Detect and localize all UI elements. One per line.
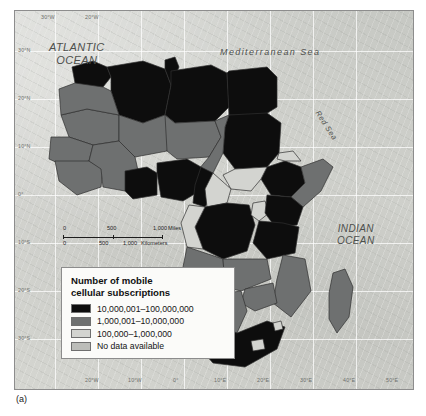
legend-item-low[interactable]: 100,000–1,000,000 [71,329,226,339]
country-region-low-enclave [273,321,283,331]
country-region-low-enclave [251,339,265,351]
label-indian-ocean: INDIAN OCEAN [337,223,375,247]
coord-label-latitude: 0° [18,191,23,197]
coord-label-longitude: 20°E [257,377,269,383]
map-frame[interactable]: ATLANTIC OCEAN INDIAN OCEAN Mediterranea… [14,10,414,390]
scale-bar-miles-row: 0 500 1,000 Miles [63,225,181,234]
legend-label-high: 10,000,001–100,000,000 [97,304,194,314]
coord-label-latitude: 30°N [18,47,31,53]
country-region-mid [273,255,311,317]
legend-swatch-mid [71,317,91,326]
scale-km-max: 1,000 [123,240,137,246]
coord-label-longitude: 40°E [343,377,355,383]
coord-label-longitude: 0° [173,377,178,383]
label-mediterranean-sea: Mediterranean Sea [220,47,320,58]
legend-label-nodata: No data available [97,341,164,351]
scale-km-mid: 500 [99,240,108,246]
figure-map-mobile-subscriptions-africa: ATLANTIC OCEAN INDIAN OCEAN Mediterranea… [0,0,426,416]
coord-label-longitude: 10°W [128,377,142,383]
coord-label-latitude: 10°N [18,143,31,149]
scale-bar: 0 500 1,000 Miles 0 500 1,000 Kilometers [63,225,181,249]
coord-label-latitude: 10°S [18,239,30,245]
coord-label-latitude: 30°S [18,335,30,341]
coord-label-longitude: 50°E [386,377,398,383]
country-region-low [277,151,301,161]
country-region-high [253,221,299,259]
label-atlantic-ocean: ATLANTIC OCEAN [49,41,105,68]
legend-title-line2: cellular subscriptions [71,287,226,299]
legend-label-mid: 1,000,001–10,000,000 [97,316,184,326]
coord-label-longitude: 30°W [41,14,55,20]
legend-item-nodata[interactable]: No data available [71,341,226,351]
country-region-mid [55,161,103,195]
scale-km-zero: 0 [63,240,66,246]
legend-label-low: 100,000–1,000,000 [97,329,172,339]
legend-swatch-nodata [71,342,91,351]
scale-bar-kilometers-row: 0 500 1,000 Kilometers [63,240,181,249]
coord-label-longitude: 10°E [214,377,226,383]
scale-miles-zero: 0 [63,225,66,231]
scale-miles-max: 1,000 [153,225,167,231]
coord-label-longitude: 30°E [300,377,312,383]
figure-caption: (a) [16,394,27,404]
coord-label-latitude: 20°S [18,287,30,293]
coord-label-latitude: 20°N [18,95,31,101]
scale-bar-graphic [63,235,163,239]
legend-item-high[interactable]: 10,000,001–100,000,000 [71,304,226,314]
legend-swatch-low [71,329,91,338]
legend-item-mid[interactable]: 1,000,001–10,000,000 [71,316,226,326]
country-region-high [223,113,281,169]
country-region-high [125,167,157,199]
coord-label-longitude: 20°W [85,377,99,383]
scale-km-unit: Kilometers [141,240,167,246]
country-region-high [195,203,255,259]
country-region-high [227,67,277,117]
scale-miles-unit: Miles [168,225,181,231]
country-region-madagascar [329,269,353,333]
country-region-high [165,65,229,123]
legend-title: Number of mobile cellular subscriptions [71,275,226,299]
map-legend: Number of mobile cellular subscriptions … [61,267,235,359]
legend-swatch-high [71,304,91,313]
coord-label-longitude: 20°W [85,14,99,20]
legend-title-line1: Number of mobile [71,275,226,287]
scale-miles-mid: 500 [107,225,116,231]
